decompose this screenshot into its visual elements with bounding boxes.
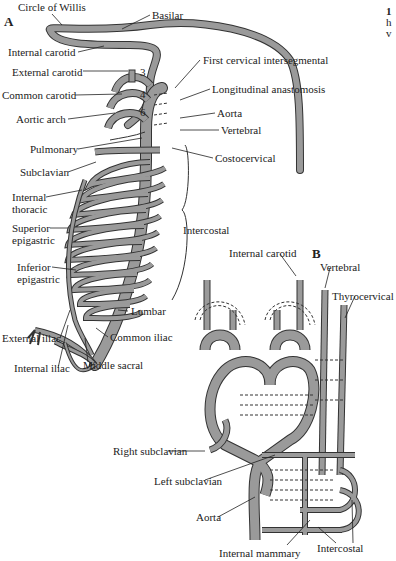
- leader-lines: [0, 0, 396, 561]
